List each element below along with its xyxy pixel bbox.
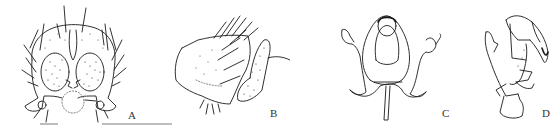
figure-caption-truncated [40,123,180,129]
figure: A B [0,0,560,129]
panel-c: C [330,0,455,129]
panel-label-c: C [442,108,449,119]
panel-b: B [160,0,290,129]
panel-d: D [470,0,560,129]
panel-label-b: B [270,108,277,119]
panel-label-a: A [128,110,136,121]
panel-label-d: D [542,108,550,119]
panel-a: A [0,0,150,129]
panel-c-drawing [330,0,455,129]
